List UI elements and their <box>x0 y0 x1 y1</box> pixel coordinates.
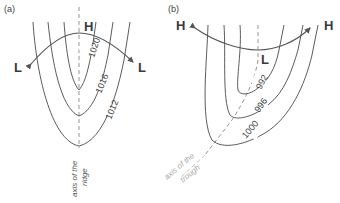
high-center-label: H <box>84 19 93 34</box>
ridge-axis-label-line1: axis of the <box>70 160 79 197</box>
panel-a-label: (a) <box>4 4 15 14</box>
low-center-label: L <box>261 52 269 67</box>
high-left-label: H <box>176 18 185 33</box>
panel-b-trough: (b) 992 996 1000 H H L axis of the troug… <box>163 4 334 185</box>
diagram-svg: (a) 1020 1016 1012 H L L axis of the rid… <box>0 0 340 203</box>
low-right-label: L <box>138 60 146 75</box>
low-left-label: L <box>14 60 22 75</box>
ridge-axis-label-line2: ridge <box>80 168 89 186</box>
panel-a-ridge: (a) 1020 1016 1012 H L L axis of the rid… <box>4 4 146 197</box>
isobar-1012 <box>33 22 130 146</box>
isobar-1016 <box>48 22 113 116</box>
panel-b-label: (b) <box>168 4 179 14</box>
high-right-label: H <box>324 18 333 33</box>
pressure-diagram: (a) 1020 1016 1012 H L L axis of the rid… <box>0 0 340 203</box>
flow-arc-trough <box>195 28 310 50</box>
